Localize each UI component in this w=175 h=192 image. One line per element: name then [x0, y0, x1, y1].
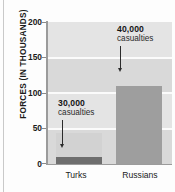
bar-russians[interactable]	[116, 86, 162, 164]
annotation-russians-casualties: 40,000 casualties	[117, 24, 153, 44]
y-tick-label-50: 50	[20, 124, 42, 132]
y-tick-label-200: 200	[20, 18, 42, 26]
gridline-150	[48, 57, 172, 59]
annotation-turks-arrow-head	[60, 144, 64, 148]
x-tick-label-turks: Turks	[53, 170, 99, 180]
y-tick-label-150: 150	[20, 53, 42, 61]
figure-left-edge-rule	[3, 0, 4, 192]
y-axis-tick-labels: 200 150 100 50 0	[18, 0, 42, 192]
annotation-turks-arrow-shaft	[62, 120, 63, 144]
bar-russians-forces	[116, 86, 162, 164]
bar-turks-casualties	[56, 157, 102, 164]
bar-chart-figure: FORCES (IN THOUSANDS) 200 150 100 50 0 3	[0, 0, 175, 192]
annotation-turks-casualties: 30,000 casualties	[58, 98, 94, 118]
y-tick-label-100: 100	[20, 89, 42, 97]
annotation-russians-value: 40,000	[117, 24, 153, 34]
annotation-russians-arrow-shaft	[120, 46, 121, 68]
annotation-turks-word: casualties	[58, 108, 94, 118]
annotation-russians-word: casualties	[117, 34, 153, 44]
annotation-russians-arrow-head	[118, 68, 122, 72]
x-tick-label-russians: Russians	[112, 170, 168, 180]
y-tick-label-0: 0	[20, 160, 42, 168]
annotation-turks-value: 30,000	[58, 98, 94, 108]
